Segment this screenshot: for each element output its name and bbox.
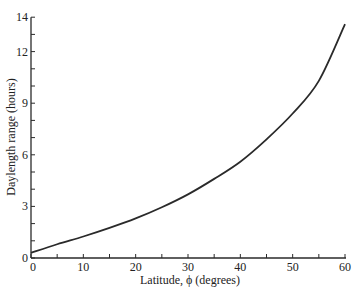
data-curve [31,24,345,253]
y-tick-label: 3 [22,199,28,213]
axes [31,17,346,258]
x-tick-label: 60 [339,260,351,274]
x-tick-label: 40 [234,260,246,274]
x-tick-label: 0 [30,260,36,274]
y-tick-label: 9 [22,96,28,110]
y-tick-label: 14 [16,10,28,24]
y-tick-label: 12 [16,45,28,59]
x-tick-label: 30 [182,260,194,274]
y-axis-title: Daylength range (hours) [4,78,18,195]
x-tick-label: 50 [287,260,299,274]
x-axis-title: Latitude, ϕ (degrees) [140,273,240,287]
x-tick-label: 10 [77,260,89,274]
y-tick-label: 0 [22,251,28,265]
chart: 0102030405060 03691214 Latitude, ϕ (degr… [0,0,361,293]
y-tick-label: 6 [22,148,28,162]
x-tick-label: 20 [130,260,142,274]
x-tick-labels: 0102030405060 [30,260,351,274]
